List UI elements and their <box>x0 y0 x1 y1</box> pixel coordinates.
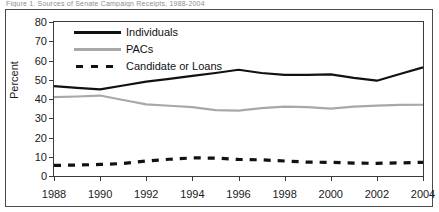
x-axis-tick-label: 1992 <box>134 189 158 200</box>
legend-label-individuals: Individuals <box>126 27 178 38</box>
y-axis-tick-label: 30 <box>35 113 47 124</box>
x-axis-tick-label: 1996 <box>226 189 250 200</box>
legend-item-candidate-or-loans: Candidate or Loans <box>74 59 222 74</box>
x-axis-tick-label: 1998 <box>272 189 296 200</box>
x-axis-tick <box>285 176 286 181</box>
legend-label-candidate-or-loans: Candidate or Loans <box>126 61 222 72</box>
series-line-candidate-or-loans <box>54 158 423 166</box>
x-axis-tick <box>423 176 424 181</box>
figure-caption: Figure 1. Sources of Senate Campaign Rec… <box>6 0 336 7</box>
x-axis-tick-label: 2004 <box>411 189 435 200</box>
x-axis-tick-label: 1990 <box>88 189 112 200</box>
legend-key-solid-black-icon <box>74 27 121 39</box>
legend-label-pacs: PACs <box>126 44 153 55</box>
y-axis-label: Percent <box>8 61 20 99</box>
y-axis-tick-label: 60 <box>35 55 47 66</box>
y-axis-tick-label: 20 <box>35 132 47 143</box>
x-axis-tick <box>146 176 147 181</box>
x-axis-tick <box>100 176 101 181</box>
x-axis-tick <box>377 176 378 181</box>
legend-item-individuals: Individuals <box>74 25 222 40</box>
y-axis-tick-label: 80 <box>35 17 47 28</box>
figure-container: Figure 1. Sources of Senate Campaign Rec… <box>0 0 439 212</box>
y-axis-tick-label: 50 <box>35 74 47 85</box>
y-axis-tick-label: 40 <box>35 94 47 105</box>
x-axis-tick-label: 2002 <box>365 189 389 200</box>
x-axis-tick-label: 1994 <box>180 189 204 200</box>
y-axis-tick-label: 70 <box>35 36 47 47</box>
y-axis-tick-label: 10 <box>35 151 47 162</box>
series-line-pacs <box>54 96 423 111</box>
legend-key-solid-gray-icon <box>74 44 121 56</box>
x-axis-tick-label: 2000 <box>319 189 343 200</box>
y-axis-tick-label: 0 <box>41 171 47 182</box>
x-axis-tick <box>54 176 55 181</box>
legend-item-pacs: PACs <box>74 42 222 57</box>
chart-legend: Individuals PACs Candidate or Loans <box>74 25 222 76</box>
x-axis-tick <box>331 176 332 181</box>
x-axis-tick-label: 1988 <box>42 189 66 200</box>
x-axis-tick <box>239 176 240 181</box>
legend-key-dashed-black-icon <box>74 61 121 73</box>
x-axis-tick <box>192 176 193 181</box>
